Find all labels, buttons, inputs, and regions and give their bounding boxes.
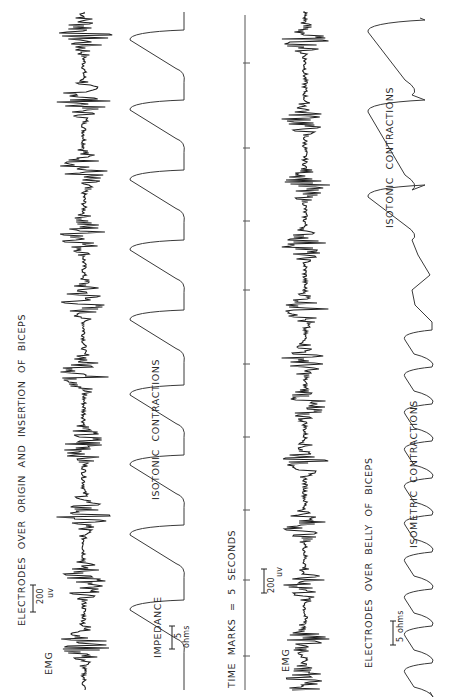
upper-impedance-label: IMPEDANCE	[153, 596, 163, 658]
lower-panel-title: ELECTRODES OVER BELLY OF BICEPS	[364, 457, 374, 668]
lower-emg-label: EMG	[281, 649, 291, 672]
time-axis-label: TIME MARKS = 5 SECONDS	[227, 530, 237, 688]
upper-emg-trace	[57, 12, 113, 690]
upper-impedance-scale-unit: ohms	[183, 625, 191, 648]
time-axis	[243, 15, 250, 690]
lower-impedance-scale-unit: ohms	[397, 610, 405, 633]
upper-impedance-trace	[130, 12, 184, 690]
upper-emg-label: EMG	[44, 652, 54, 675]
isometric-contraction-label: ISOMETRIC CONTRACTIONS	[409, 400, 419, 548]
upper-contraction-label: ISOTONIC CONTRACTIONS	[151, 359, 161, 500]
upper-emg-scale-value: 200	[37, 588, 45, 604]
lower-emg-scale-value: 200	[268, 577, 276, 593]
upper-panel-title: ELECTRODES OVER ORIGIN AND INSERTION OF …	[17, 314, 27, 626]
lower-emg-trace	[282, 12, 330, 690]
lower-isotonic-contraction-label: ISOTONIC CONTRACTIONS	[385, 87, 395, 228]
lower-impedance-scale-value: 5	[397, 637, 405, 642]
lower-impedance-trace	[368, 18, 433, 697]
emg-impedance-figure	[0, 0, 476, 699]
lower-emg-scale-unit: uv	[276, 567, 284, 577]
upper-emg-scale-unit: uv	[47, 588, 55, 598]
